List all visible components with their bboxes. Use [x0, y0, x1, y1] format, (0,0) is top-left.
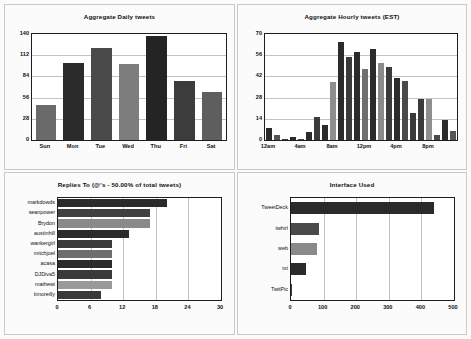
x-axis-tick-label: 4pm	[382, 143, 410, 149]
x-axis-tick-label: Fri	[169, 143, 197, 149]
x-axis-tick-label: 30	[206, 304, 234, 310]
bar-timoreilly	[58, 291, 101, 299]
bar-Wed	[119, 64, 140, 140]
bar-TwitPic	[291, 284, 292, 296]
gridline-x	[188, 198, 189, 300]
y-axis-tick-label: 140	[11, 30, 29, 36]
y-axis-tick-label: 42	[244, 72, 262, 78]
chart-title-hourly: Aggregate Hourly tweets (EST)	[238, 13, 466, 21]
category-label-timoreilly: timoreilly	[11, 291, 55, 297]
bar-2pm	[378, 63, 385, 140]
bar-8pm	[426, 99, 433, 140]
bar-9pm	[434, 135, 441, 140]
bar-11am	[354, 52, 361, 140]
bar-6pm	[410, 113, 417, 140]
bar-11pm	[450, 131, 457, 140]
bar-wankergirl	[58, 240, 112, 248]
x-axis-tick-label: Wed	[114, 143, 142, 149]
y-axis-tick-label: 70	[244, 30, 262, 36]
bar-Mon	[63, 63, 84, 140]
y-axis-tick-label: 14	[244, 115, 262, 121]
y-axis-tick-label: 84	[11, 72, 29, 78]
y-axis-tick-label: 112	[11, 51, 29, 57]
x-axis-tick-label: 18	[141, 304, 169, 310]
y-axis-tick-label: 28	[11, 115, 29, 121]
bar-mathewi	[58, 281, 112, 289]
x-axis-tick-label: 6	[76, 304, 104, 310]
x-axis-tick-label: 0	[276, 304, 304, 310]
x-axis-tick-label: 500	[439, 304, 467, 310]
x-axis-tick-label: 8pm	[414, 143, 442, 149]
category-label-austinhill: austinhill	[11, 230, 55, 236]
category-label-wankergirl: wankergirl	[11, 240, 55, 246]
bar-Fri	[174, 81, 195, 140]
plot-area-interface	[290, 197, 455, 301]
x-axis-tick-label: 12	[108, 304, 136, 310]
category-label-mathewi: mathewi	[11, 281, 55, 287]
bar-Sat	[202, 92, 223, 140]
gridline-x	[156, 198, 157, 300]
bar-Tue	[91, 48, 112, 140]
gridline-y	[32, 55, 226, 56]
bar-12pm	[362, 69, 369, 140]
x-axis-tick-label: Thu	[142, 143, 170, 149]
bar-Thu	[146, 36, 167, 140]
bar-5pm	[402, 81, 409, 140]
category-label-seanpower: seanpower	[11, 209, 55, 215]
category-label-TwitPic: TwitPic	[244, 286, 288, 292]
category-label-web: web	[244, 245, 288, 251]
bar-12am	[266, 128, 273, 140]
bar-TweetDeck	[291, 202, 434, 214]
bar-1pm	[370, 49, 377, 140]
panel-aggregate-hourly-tweets: Aggregate Hourly tweets (EST) 0142842567…	[237, 4, 467, 170]
bar-5am	[306, 132, 313, 140]
chart-title-replies: Replies To (@'s - 50.00% of total tweets…	[5, 181, 234, 189]
x-axis-tick-label: Mon	[59, 143, 87, 149]
category-label-Brydon: Brydon	[11, 220, 55, 226]
panel-interface-used: Interface Used 0100200300400500TweetDeck…	[237, 172, 467, 335]
bar-10pm	[442, 120, 449, 140]
bar-4pm	[394, 78, 401, 140]
bar-Sun	[36, 105, 57, 140]
chart-title-daily: Aggregate Daily tweets	[5, 13, 234, 21]
category-label-txt: txt	[244, 265, 288, 271]
plot-area-replies	[57, 197, 222, 301]
plot-area-daily	[31, 33, 227, 141]
x-axis-tick-label: 200	[341, 304, 369, 310]
y-axis-tick-label: 56	[244, 51, 262, 57]
category-label-markdowds: markdowds	[11, 199, 55, 205]
bar-2am	[282, 139, 289, 141]
bar-3pm	[386, 67, 393, 140]
x-axis-tick-label: 4am	[286, 143, 314, 149]
chart-title-interface: Interface Used	[238, 181, 466, 189]
category-label-mitchjoel: mitchjoel	[11, 250, 55, 256]
bar-9am	[338, 42, 345, 140]
x-axis-tick-label: 12pm	[350, 143, 378, 149]
y-axis-tick-label: 0	[11, 136, 29, 142]
bar-7pm	[418, 99, 425, 140]
bar-7am	[322, 125, 329, 140]
bar-3am	[290, 137, 297, 140]
bar-twhirl	[291, 223, 319, 235]
panel-replies-to: Replies To (@'s - 50.00% of total tweets…	[4, 172, 235, 335]
plot-area-hourly	[264, 33, 458, 141]
category-label-DJDiva5: DJDiva5	[11, 271, 55, 277]
x-axis-tick-label: 0	[43, 304, 71, 310]
x-axis-tick-label: 8am	[318, 143, 346, 149]
gridline-y	[265, 55, 457, 56]
bar-10am	[346, 57, 353, 140]
bar-txt	[291, 263, 306, 275]
bar-mitchjoel	[58, 250, 112, 258]
panel-aggregate-daily-tweets: Aggregate Daily tweets 0285684112140SunM…	[4, 4, 235, 170]
bar-web	[291, 243, 317, 255]
x-axis-tick-label: 24	[173, 304, 201, 310]
x-axis-tick-label: 12am	[254, 143, 282, 149]
category-label-twhirl: twhirl	[244, 225, 288, 231]
x-axis-tick-label: Sat	[197, 143, 225, 149]
x-axis-tick-label: 400	[406, 304, 434, 310]
bar-8am	[330, 82, 337, 140]
x-axis-tick-label: 100	[309, 304, 337, 310]
y-axis-tick-label: 0	[244, 136, 262, 142]
category-label-acasa: acasa	[11, 260, 55, 266]
x-axis-tick-label: Sun	[31, 143, 59, 149]
